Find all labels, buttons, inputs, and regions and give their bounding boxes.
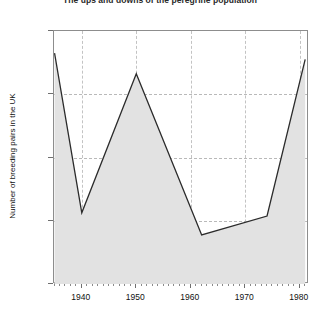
series-layer bbox=[54, 31, 309, 284]
y-tick-mark-200 bbox=[48, 283, 53, 284]
x-tick-label-1950: 1950 bbox=[112, 292, 158, 302]
x-tick-label-1940: 1940 bbox=[58, 292, 104, 302]
plot-area bbox=[53, 30, 308, 283]
x-tick-label-1960: 1960 bbox=[167, 292, 213, 302]
peregrine-population-chart: The ups and downs of the peregrine popul… bbox=[0, 0, 320, 323]
y-axis-title: Number of breeding pairs in the UK bbox=[8, 56, 20, 256]
x-tick-label-1980: 1980 bbox=[276, 292, 320, 302]
chart-title: The ups and downs of the peregrine popul… bbox=[0, 0, 320, 6]
series-area-fill bbox=[55, 53, 306, 284]
x-tick-label-1970: 1970 bbox=[221, 292, 267, 302]
